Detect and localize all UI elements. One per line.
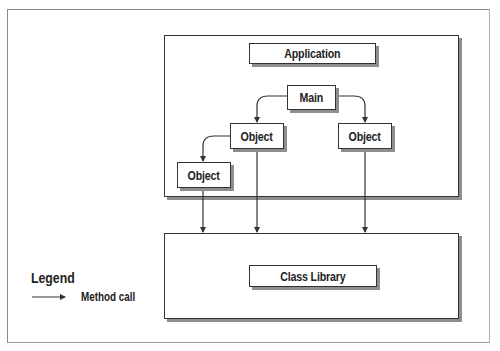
application-label: Application	[249, 43, 376, 64]
legend-item-label: Method call	[81, 290, 135, 304]
arrow-main-to-object-left	[257, 96, 287, 122]
arrow-main-to-object-right	[336, 96, 365, 122]
object-node-middle-left: Object	[230, 123, 284, 149]
main-node-text: Main	[300, 90, 324, 105]
object-node-text: Object	[241, 129, 273, 144]
legend-item-method-call: Method call	[81, 290, 147, 304]
class-library-label: Class Library	[249, 265, 377, 287]
main-node: Main	[287, 85, 336, 110]
application-label-text: Application	[284, 46, 340, 61]
legend-title-text: Legend	[31, 269, 75, 286]
object-node-text: Object	[349, 129, 381, 144]
object-node-right: Object	[338, 123, 392, 149]
arrow-object-to-object-lower	[203, 136, 230, 161]
class-library-label-text: Class Library	[280, 269, 345, 284]
legend-title: Legend	[31, 269, 84, 286]
object-node-text: Object	[188, 168, 220, 183]
object-node-lower-left: Object	[177, 162, 231, 188]
